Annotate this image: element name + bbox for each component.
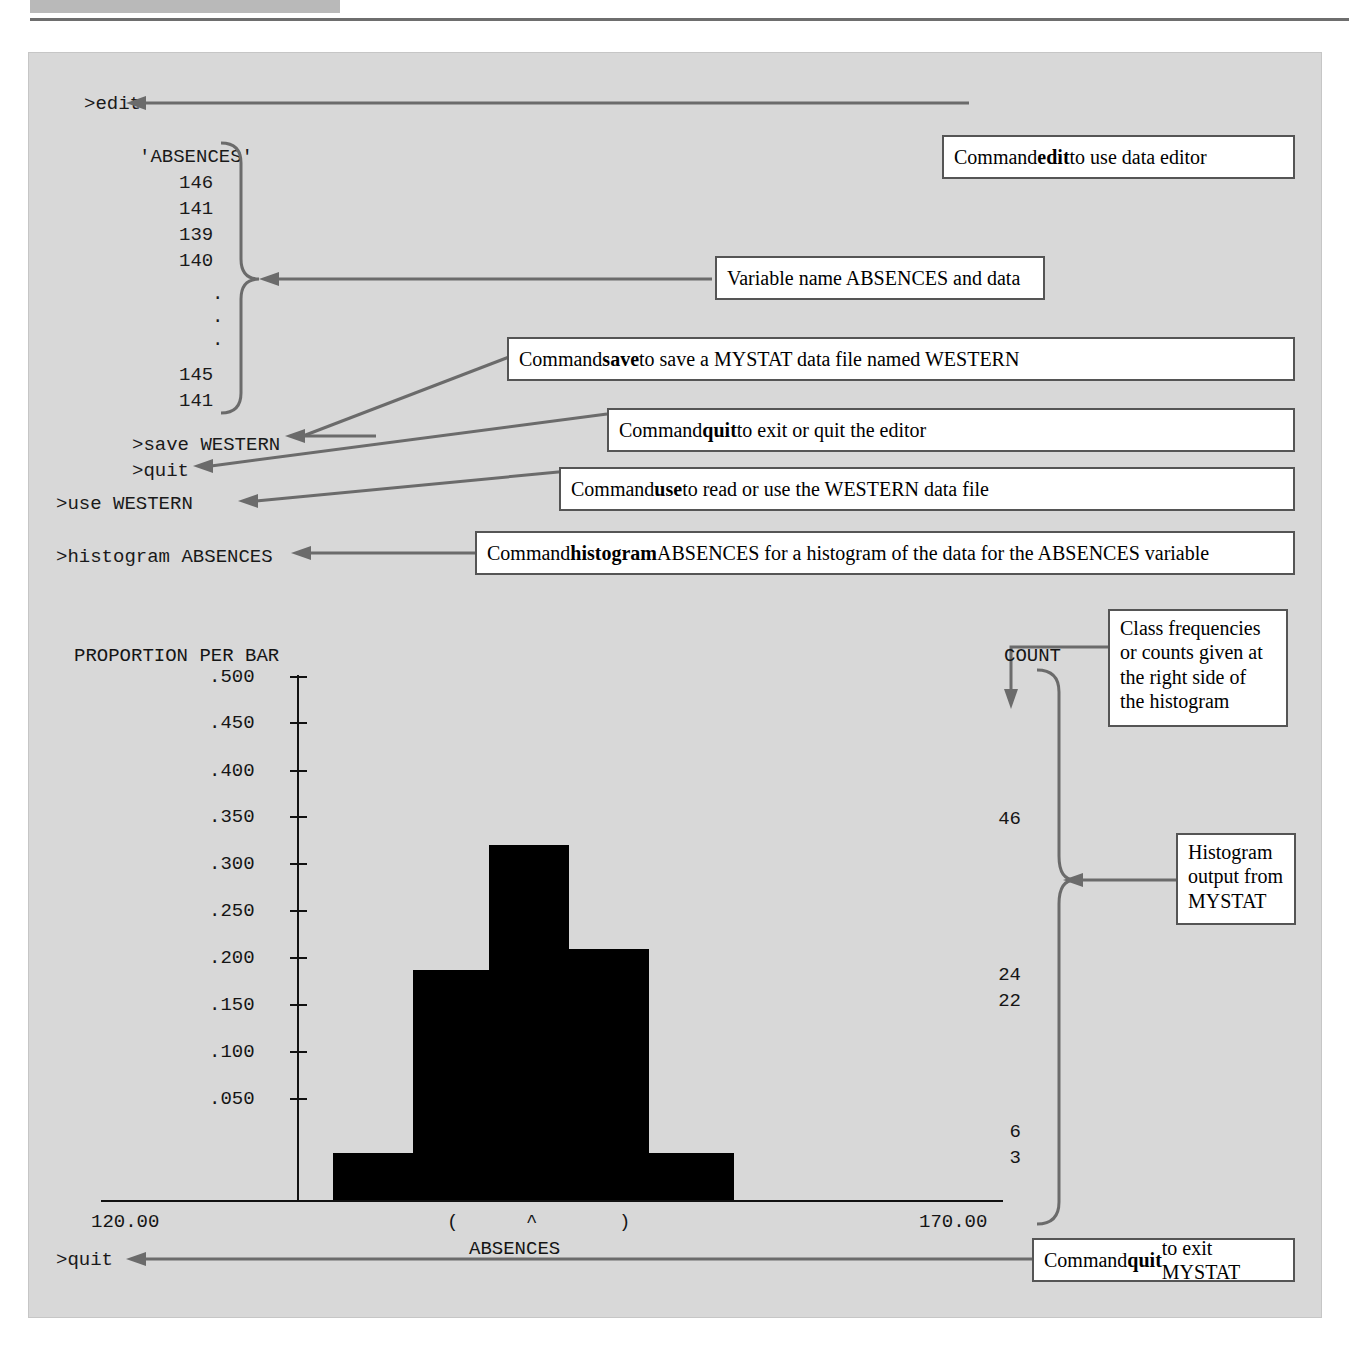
- page-header-rule: [30, 18, 1349, 21]
- ytick-mark-5: [290, 910, 307, 912]
- terminal-line-use: >use WESTERN: [56, 493, 193, 515]
- histogram-count-24: 24: [981, 964, 1021, 986]
- callout-quit-mystat-post: to exit MYSTAT: [1162, 1236, 1283, 1285]
- ytick-mark-3: [290, 816, 307, 818]
- x-marker-left-paren: (: [447, 1211, 458, 1233]
- terminal-data-value-2: 139: [179, 224, 213, 246]
- ytick-label-9: .050: [209, 1088, 255, 1110]
- histogram-y-axis: [297, 675, 299, 1202]
- callout-class-frequencies-line-0: Class frequencies: [1120, 616, 1276, 640]
- callout-quit-editor: Command quit to exit or quit the editor: [607, 408, 1295, 452]
- callout-save: Command save to save a MYSTAT data file …: [507, 337, 1295, 381]
- xtick-label-min: 120.00: [91, 1211, 159, 1233]
- callout-class-frequencies: Class frequencies or counts given at the…: [1108, 609, 1288, 727]
- terminal-line-quit-mystat: >quit: [56, 1249, 113, 1271]
- terminal-data-value-1: 141: [179, 198, 213, 220]
- ytick-label-0: .500: [209, 666, 255, 688]
- connector-variable-arrow: [257, 267, 717, 291]
- histogram-bar-1: [333, 1153, 413, 1200]
- ytick-label-8: .100: [209, 1041, 255, 1063]
- page-header-gray-band: [30, 0, 340, 13]
- callout-edit-pre: Command: [954, 145, 1037, 169]
- callout-class-frequencies-line-2: the right side of: [1120, 665, 1276, 689]
- callout-histogram-post: ABSENCES for a histogram of the data for…: [657, 541, 1209, 565]
- histogram-bar-3: [489, 845, 569, 1200]
- histogram-bar-5: [649, 1153, 734, 1200]
- connector-hist-output-arrow: [1061, 868, 1186, 892]
- callout-quit-mystat: Command quit to exit MYSTAT: [1032, 1238, 1295, 1282]
- histogram-count-46: 46: [981, 808, 1021, 830]
- terminal-data-value-0: 146: [179, 172, 213, 194]
- histogram-bar-4: [569, 949, 649, 1200]
- callout-edit-cmd: edit: [1037, 145, 1069, 169]
- callout-class-frequencies-line-1: or counts given at: [1120, 640, 1276, 664]
- callout-histogram-output-line-0: Histogram: [1188, 840, 1284, 864]
- connector-use-arrow: [234, 465, 594, 511]
- callout-histogram-output: Histogram output from MYSTAT: [1176, 833, 1296, 925]
- xtick-label-max: 170.00: [919, 1211, 987, 1233]
- callout-quit-mystat-cmd: quit: [1127, 1248, 1161, 1272]
- callout-variable: Variable name ABSENCES and data: [715, 256, 1045, 300]
- ytick-label-2: .400: [209, 760, 255, 782]
- connector-quit-mystat-arrow: [124, 1247, 1064, 1271]
- ytick-label-1: .450: [209, 712, 255, 734]
- ytick-mark-7: [290, 1004, 307, 1006]
- histogram-count-3: 3: [981, 1147, 1021, 1169]
- ytick-mark-2: [290, 770, 307, 772]
- ytick-mark-6: [290, 957, 307, 959]
- ytick-mark-4: [290, 863, 307, 865]
- terminal-line-quit-editor: >quit: [132, 460, 189, 482]
- histogram-x-axis: [101, 1200, 1003, 1202]
- connector-histogram-arrow: [289, 541, 484, 565]
- ytick-label-3: .350: [209, 806, 255, 828]
- mystat-session-panel: >edit 'ABSENCES' 146 141 139 140 . . . 1…: [28, 52, 1322, 1318]
- callout-histogram-pre: Command: [487, 541, 570, 565]
- terminal-data-tail-0: 145: [179, 364, 213, 386]
- callout-save-post: to save a MYSTAT data file named WESTERN: [639, 347, 1019, 371]
- x-marker-caret: ^: [526, 1211, 537, 1233]
- ytick-label-4: .300: [209, 853, 255, 875]
- callout-histogram: Command histogram ABSENCES for a histogr…: [475, 531, 1295, 575]
- x-marker-right-paren: ): [619, 1211, 630, 1233]
- histogram-output-brace: [1029, 668, 1079, 1228]
- ytick-mark-8: [290, 1051, 307, 1053]
- callout-use-post: to read or use the WESTERN data file: [682, 477, 989, 501]
- callout-histogram-output-line-2: MYSTAT: [1188, 889, 1284, 913]
- callout-quit-editor-post: to exit or quit the editor: [737, 418, 926, 442]
- histogram-count-6: 6: [981, 1121, 1021, 1143]
- terminal-line-histogram: >histogram ABSENCES: [56, 546, 273, 568]
- ytick-mark-9: [290, 1098, 307, 1100]
- callout-edit: Command edit to use data editor: [942, 135, 1295, 179]
- histogram-bar-2: [413, 970, 489, 1200]
- callout-edit-post: to use data editor: [1070, 145, 1207, 169]
- callout-use-pre: Command: [571, 477, 654, 501]
- callout-variable-text: Variable name ABSENCES and data: [727, 266, 1020, 290]
- callout-quit-mystat-pre: Command: [1044, 1248, 1127, 1272]
- callout-use-cmd: use: [654, 477, 682, 501]
- callout-histogram-cmd: histogram: [570, 541, 657, 565]
- ytick-label-5: .250: [209, 900, 255, 922]
- connector-edit-arrow: [124, 91, 974, 115]
- ytick-label-7: .150: [209, 994, 255, 1016]
- callout-quit-editor-pre: Command: [619, 418, 702, 442]
- callout-quit-editor-cmd: quit: [702, 418, 736, 442]
- callout-save-cmd: save: [602, 347, 639, 371]
- terminal-data-value-3: 140: [179, 250, 213, 272]
- callout-save-pre: Command: [519, 347, 602, 371]
- ytick-label-6: .200: [209, 947, 255, 969]
- ytick-mark-1: [290, 722, 307, 724]
- callout-class-frequencies-line-3: the histogram: [1120, 689, 1276, 713]
- callout-histogram-output-line-1: output from: [1188, 864, 1284, 888]
- callout-use: Command use to read or use the WESTERN d…: [559, 467, 1295, 511]
- histogram-ylabel: PROPORTION PER BAR: [74, 645, 279, 667]
- ytick-mark-0: [290, 676, 307, 678]
- histogram-count-22: 22: [981, 990, 1021, 1012]
